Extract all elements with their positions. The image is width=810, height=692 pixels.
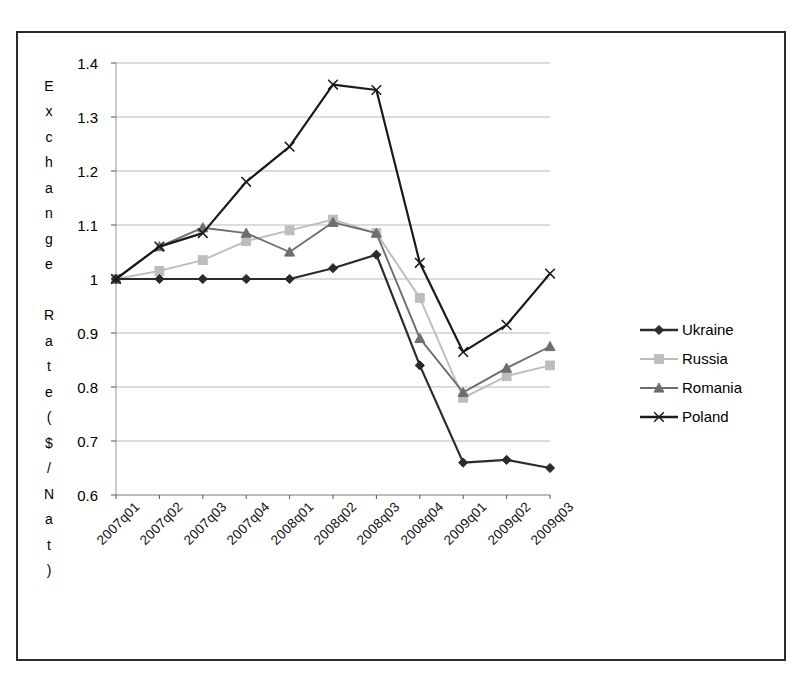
y-axis-title-char: e [45,252,53,278]
legend-label: Romania [682,379,742,396]
y-axis-tick-label: 0.9 [77,325,98,342]
data-point-marker [459,458,468,467]
y-axis-title-char: x [46,99,53,125]
legend-item-ukraine[interactable]: Ukraine [638,315,788,344]
data-point-marker [546,361,555,370]
data-point-marker [415,294,424,303]
data-point-marker [328,264,337,273]
data-point-marker [242,274,251,283]
y-axis-title-char: e [45,379,53,405]
x-axis-tick-label: 2007q03 [181,499,230,548]
plot-canvas [104,59,556,499]
data-point-marker [502,455,511,464]
data-point-marker [415,333,425,342]
x-axis-tick-labels: 2007q012007q022007q032007q042008q012008q… [104,499,556,609]
data-point-marker [545,342,555,351]
x-axis-tick-label: 2008q01 [267,499,316,548]
x-axis-tick-label: 2009q01 [441,499,490,548]
legend-label: Russia [682,350,728,367]
chart-legend: UkraineRussiaRomaniaPoland [638,315,788,431]
data-point-marker [285,247,295,256]
legend-item-russia[interactable]: Russia [638,344,788,373]
y-axis-title-char: ( [47,405,52,431]
series-russia [112,215,555,402]
legend-item-poland[interactable]: Poland [638,402,788,431]
data-point-marker [285,226,294,235]
data-point-marker [241,177,251,187]
y-axis-title-char: ) [47,558,52,584]
y-axis-title-char: N [44,481,54,507]
x-axis-tick-label: 2008q04 [398,499,447,548]
data-point-marker [372,250,381,259]
legend-item-romania[interactable]: Romania [638,373,788,402]
y-axis-title-char: h [45,150,53,176]
y-axis-title-char: a [45,328,53,354]
series-romania [111,217,555,396]
y-axis-tick-label: 1.4 [77,55,98,72]
y-axis-tick-label: 1.2 [77,163,98,180]
data-point-marker [545,463,554,472]
y-axis-title-char: / [47,456,51,482]
data-series-group [111,80,555,473]
y-axis-tick-label: 1.1 [77,217,98,234]
y-axis-tick-label: 0.8 [77,379,98,396]
x-axis-tick-label: 2007q01 [94,499,143,548]
x-axis-tick-label: 2008q02 [311,499,360,548]
x-axis-tick-label: 2008q03 [354,499,403,548]
data-point-marker [654,325,663,334]
y-axis-tick-label: 0.6 [77,487,98,504]
x-axis-tick-label: 2007q02 [137,499,186,548]
y-axis-title-char: E [44,73,53,99]
x-axis-tick-label: 2009q03 [528,499,577,548]
legend-marker-x-icon [638,408,680,426]
y-axis-tick-label: 1 [90,271,98,288]
data-point-marker [655,354,664,363]
data-point-marker [285,142,295,152]
data-point-marker [502,320,512,330]
y-axis-tick-label: 1.3 [77,109,98,126]
y-axis-title-char: a [45,507,53,533]
chart-frame: Exchange.Rate($/Nat) 0.60.70.80.911.11.2… [16,31,786,661]
legend-marker-square-icon [638,350,680,368]
data-point-marker [502,372,511,381]
data-point-marker [415,361,424,370]
x-axis-tick-label: 2007q04 [224,499,273,548]
y-axis-title-char: R [44,303,54,329]
y-axis-title-char: $ [45,430,53,456]
y-axis-title-char: t [47,532,51,558]
y-axis-title-char: c [46,124,53,150]
y-axis-tick-label: 0.7 [77,433,98,450]
y-axis-title-char: g [45,226,53,252]
data-point-marker [198,274,207,283]
y-axis-title-char: a [45,175,53,201]
series-ukraine [111,250,554,473]
y-axis-title-char: t [47,354,51,380]
legend-marker-triangle-icon [638,379,680,397]
data-point-marker [458,347,468,357]
y-axis-tick-labels: 0.60.70.80.911.11.21.31.4 [56,33,98,659]
plot-area [104,59,556,499]
y-axis-title-char: n [45,201,53,227]
data-point-marker [545,269,555,279]
y-axis-title-char: . [47,277,51,303]
legend-label: Ukraine [682,321,734,338]
legend-marker-diamond-icon [638,321,680,339]
data-point-marker [285,274,294,283]
data-point-marker [242,237,251,246]
data-point-marker [198,256,207,265]
data-point-marker [502,363,512,372]
x-axis-tick-label: 2009q02 [484,499,533,548]
legend-label: Poland [682,408,729,425]
